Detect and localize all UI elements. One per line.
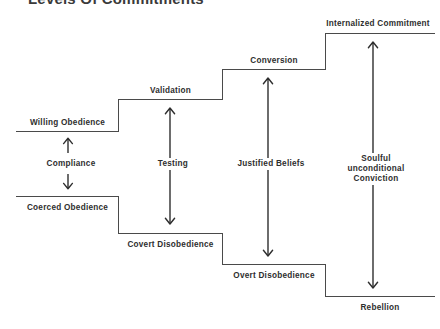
diagram-title: Levels Of Commitments [28,0,288,7]
step-tread-coerced-obedience [16,196,119,197]
step-label-covert-disobedience: Covert Disobedience [118,240,223,250]
step-tread-covert-disobedience [118,233,223,234]
arrow-down-icon [61,173,75,191]
step-label-willing-obedience: Willing Obedience [16,118,119,128]
step-tread-willing-obedience [16,131,119,132]
transition-label-testing: Testing [145,158,201,170]
transition-label-justified-beliefs: Justified Beliefs [229,158,313,170]
step-label-rebellion: Rebellion [325,303,435,313]
arrow-up-icon [61,136,75,154]
step-tread-internalized-commitment [325,33,435,34]
step-tread-conversion [222,69,326,70]
step-label-coerced-obedience: Coerced Obedience [16,203,119,213]
step-tread-validation [118,99,223,100]
step-label-overt-disobedience: Overt Disobedience [222,271,326,281]
diagram-canvas: Levels Of Commitments Willing Obedience … [0,0,440,329]
step-label-validation: Validation [118,86,223,96]
step-label-conversion: Conversion [222,56,326,66]
step-tread-overt-disobedience [222,264,326,265]
step-riser-coerced-to-covert [118,196,119,234]
transition-label-compliance: Compliance [33,158,109,170]
step-tread-rebellion [325,296,435,297]
transition-label-soulful-conviction: Soulful unconditional Conviction [330,153,422,185]
step-label-internalized-commitment: Internalized Commitment [318,19,438,29]
